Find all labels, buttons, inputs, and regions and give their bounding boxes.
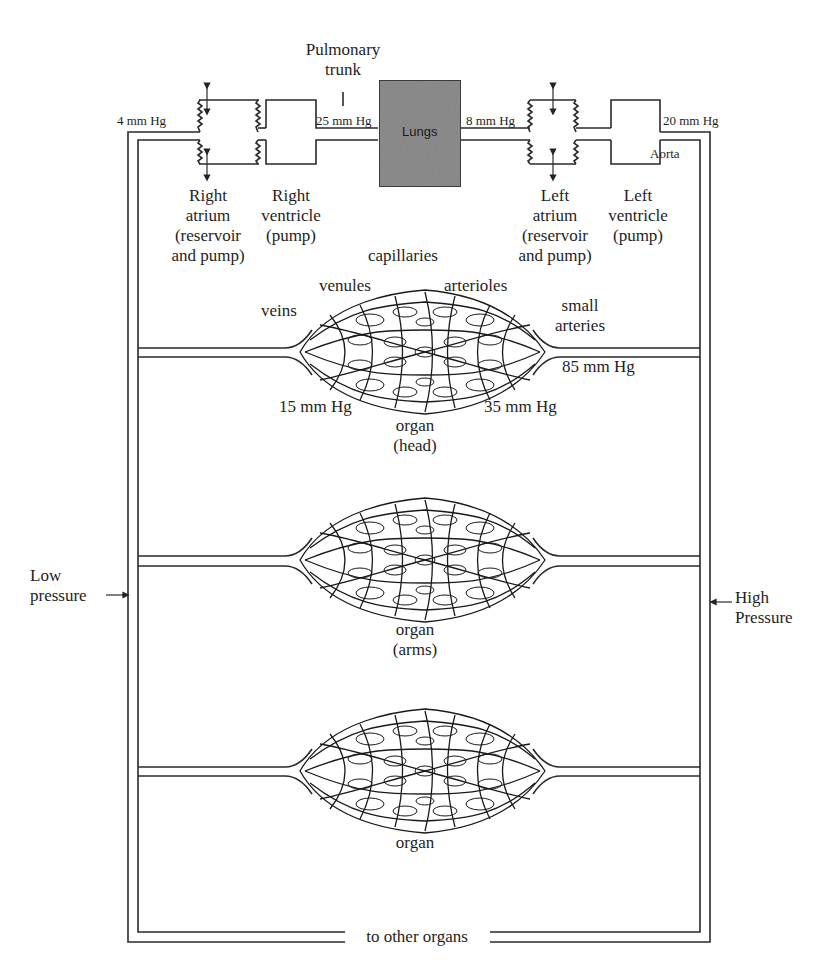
left-atrium-label: Left atrium (reservoir and pump) bbox=[517, 186, 593, 266]
organ-head-label: organ (head) bbox=[380, 416, 450, 456]
arterioles-label: arterioles bbox=[444, 276, 507, 296]
pressure-small-arteries: 85 mm Hg bbox=[562, 357, 635, 377]
high-pressure-label: High Pressure bbox=[735, 588, 793, 628]
low-pressure-label: Low pressure bbox=[30, 566, 87, 606]
pressure-arterioles: 35 mm Hg bbox=[484, 397, 557, 417]
capillaries-label: capillaries bbox=[368, 246, 438, 266]
pressure-aorta: 20 mm Hg bbox=[663, 113, 719, 128]
organ-generic-vessels bbox=[138, 749, 700, 794]
pressure-venules: 15 mm Hg bbox=[279, 397, 352, 417]
aorta-label: Aorta bbox=[650, 146, 680, 161]
capillary-bed-arms bbox=[300, 498, 545, 622]
pressure-left-atrium: 8 mm Hg bbox=[466, 113, 515, 128]
to-other-organs-label: to other organs bbox=[352, 927, 482, 947]
circulation-diagram bbox=[0, 0, 840, 973]
capillary-bed-head bbox=[300, 290, 545, 414]
organ-arms-label: organ (arms) bbox=[380, 620, 450, 660]
right-atrium-wall bbox=[198, 100, 202, 132]
pulmonary-trunk-label: Pulmonary trunk bbox=[298, 40, 388, 80]
left-ventricle bbox=[611, 100, 660, 132]
lungs-label: Lungs bbox=[402, 124, 437, 139]
organ-generic-label: organ bbox=[380, 833, 450, 853]
veins-label: veins bbox=[261, 301, 297, 321]
pressure-right-atrium: 4 mm Hg bbox=[117, 113, 166, 128]
left-ventricle-label: Left ventricle (pump) bbox=[600, 186, 676, 246]
venules-label: venules bbox=[319, 276, 371, 296]
small-arteries-label: small arteries bbox=[540, 296, 620, 336]
right-ventricle-label: Right ventricle (pump) bbox=[253, 186, 329, 246]
capillary-bed-generic bbox=[300, 709, 545, 833]
right-atrium-label: Right atrium (reservoir and pump) bbox=[170, 186, 246, 266]
pressure-pulmonary-trunk: 25 mm Hg bbox=[316, 113, 372, 128]
